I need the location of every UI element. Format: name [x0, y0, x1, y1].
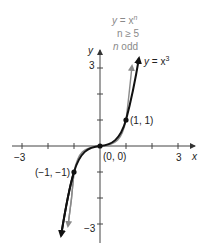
curve-x-cubed-tail: [61, 172, 74, 236]
annotation-x-n: y = xn n ≥ 5 n odd: [111, 14, 140, 52]
curve-label-eq: = x: [149, 56, 165, 67]
x-axis-label: x: [191, 151, 198, 162]
y-axis-label: y: [87, 45, 94, 56]
y-tick-label-3: 3: [89, 60, 95, 71]
annotation-line-2: n ≥ 5: [117, 28, 140, 39]
point-label-0-0: (0, 0): [103, 151, 126, 162]
x-tick-label-neg3: −3: [14, 152, 26, 163]
annotation-line-1: y = xn: [111, 14, 137, 26]
curve-label-x-cubed: y = x3: [143, 55, 169, 67]
x-tick-label-3: 3: [176, 152, 182, 163]
point-1-1: [123, 117, 128, 122]
point-label-1-1: (1, 1): [130, 115, 153, 126]
point-neg1-neg1: [71, 169, 76, 174]
y-tick-label-neg3: −3: [84, 223, 96, 234]
annotation-line-3: n odd: [113, 41, 138, 52]
curve-label-exp: 3: [165, 55, 169, 62]
point-0-0: [97, 143, 102, 148]
point-label-neg1-neg1: (−1, −1): [35, 167, 70, 178]
graph-canvas: y x −3 3 3 −3 (1, 1) (0, 0) (−1, −1) y =…: [0, 0, 210, 251]
